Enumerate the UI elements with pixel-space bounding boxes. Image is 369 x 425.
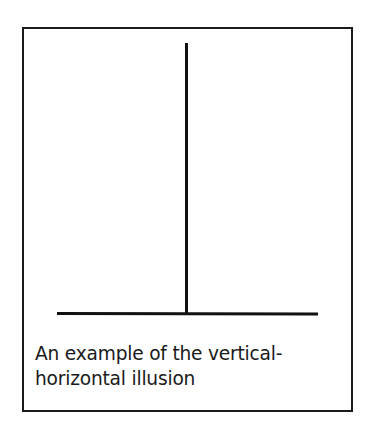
horizontal-line (57, 312, 318, 316)
vertical-line (185, 43, 188, 315)
caption-line-2: horizontal illusion (35, 366, 345, 391)
caption-line-1: An example of the vertical- (35, 341, 345, 366)
figure-caption: An example of the vertical- horizontal i… (35, 341, 345, 391)
